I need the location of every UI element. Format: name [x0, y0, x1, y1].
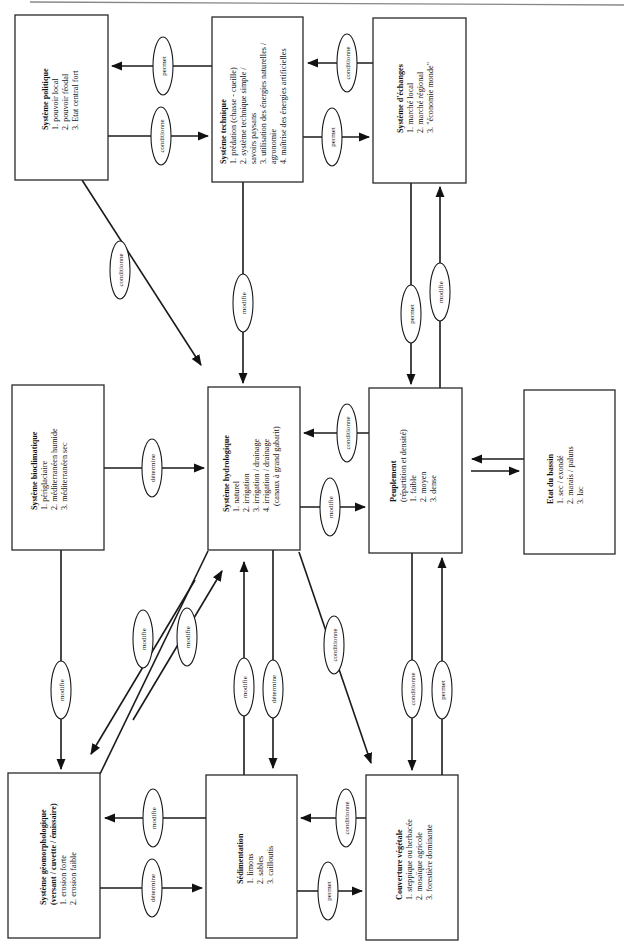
- relation-label: modifie: [240, 292, 248, 314]
- relation-label: conditionne: [409, 672, 417, 705]
- box-systeme-hydrologique: Système hydrologique 1. naturel 2. irrig…: [208, 387, 300, 550]
- box-systeme-technique: Système technique 1. prédation (chasse -…: [212, 17, 303, 182]
- relation-label: modifie: [58, 679, 66, 701]
- top-rule: [30, 2, 624, 5]
- box-couverture-vegetale: Couverture végétale 1. steppique ou herb…: [366, 775, 458, 940]
- relation-label: modifie: [184, 626, 192, 648]
- edge-technique-echanges: permet: [303, 108, 369, 166]
- relation-label: modifie: [150, 807, 158, 829]
- relation-label: permet: [439, 680, 447, 699]
- edge-geomorphologique-sedimentation: détermine: [100, 859, 202, 917]
- relation-label: modifie: [327, 496, 335, 518]
- relation-label: conditionne: [331, 628, 339, 661]
- box-systeme-geomorphologique: Système géomorphologique (versant / cuve…: [8, 773, 100, 938]
- svg-text:Système d'échanges 1. ma: Système d'échanges 1. marché local 2. ma…: [389, 60, 435, 133]
- edge-technique-politique: permet: [112, 37, 212, 95]
- edge-geomorphologique-hydrologique: modifie: [100, 551, 222, 774]
- box-title: Sédimentation: [236, 833, 245, 884]
- edge-sedimentation-geomorphologique: modifie: [105, 789, 206, 847]
- edge-hydrologique-sedimentation: détermine: [263, 550, 283, 768]
- box-title: Couverture végétale: [395, 829, 404, 900]
- edge-technique-hydrologique: modifie: [233, 182, 253, 383]
- box-title: Système politique: [41, 68, 50, 130]
- relation-label: conditionne: [117, 253, 125, 286]
- edge-sedimentation-hydrologique: modifie: [234, 562, 254, 775]
- box-sedimentation: Sédimentation 1. limons 2. sables 3. cai…: [206, 775, 297, 938]
- systems-diagram: permet conditionne conditionne permet co…: [0, 0, 624, 950]
- box-title: Système bioclimatique: [30, 431, 39, 510]
- relation-label: permet: [408, 304, 416, 323]
- box-systeme-politique: Système politique 1. pouvoir local 2. po…: [15, 15, 108, 180]
- relation-label: conditionne: [344, 46, 352, 79]
- edge-sedimentation-vegetale: permet: [297, 862, 362, 920]
- edge-hydrologique-geomorphologique: modifie: [91, 580, 195, 754]
- edge-bioclimatique-geomorphologique: modifie: [51, 550, 71, 769]
- edge-peuplement-echanges: modifie: [430, 187, 450, 388]
- relation-label: permet: [160, 56, 168, 75]
- edge-bassin-peuplement: [471, 459, 524, 471]
- edge-hydrologique-peuplement: modifie: [300, 478, 365, 536]
- box-title: Etat du bassin: [546, 453, 555, 504]
- box-title: Système géomorphologique: [39, 809, 48, 905]
- box-etat-du-bassin: Etat du bassin 1. sec / exondé 2. marais…: [524, 390, 615, 554]
- box-systeme-echanges: Système d'échanges 1. marché local 2. ma…: [373, 18, 466, 183]
- edge-echanges-technique: conditionne: [308, 34, 373, 92]
- relation-label: permet: [329, 127, 337, 146]
- relation-label: modifie: [241, 676, 249, 698]
- edge-echanges-peuplement: permet: [401, 183, 421, 384]
- relation-label: conditionne: [344, 416, 352, 449]
- relation-label: détermine: [270, 675, 278, 703]
- box-title: Système hydrologique: [222, 435, 231, 512]
- svg-text:Système politique 1. pou: Système politique 1. pouvoir local 2. po…: [34, 64, 80, 130]
- relation-label: conditionne: [158, 119, 166, 152]
- box-peuplement: Peuplement (répartition et densité) 1. f…: [369, 388, 462, 553]
- edge-vegetale-peuplement: permet: [432, 558, 452, 775]
- edge-peuplement-vegetale: conditionne: [402, 553, 422, 770]
- svg-text:Couverture végétale 1. s: Couverture végétale 1. steppique ou herb…: [388, 815, 434, 900]
- box-title: Système technique: [219, 99, 228, 164]
- relation-label: conditionne: [343, 801, 351, 834]
- edge-politique-hydrologique: conditionne: [82, 180, 201, 365]
- edge-politique-technique: conditionne: [108, 107, 208, 165]
- relation-label: modifie: [140, 628, 148, 650]
- edge-peuplement-hydrologique: conditionne: [304, 404, 369, 462]
- edge-hydrologique-vegetale: conditionne: [299, 552, 371, 763]
- box-systeme-bioclimatique: Système bioclimatique 1. périglaciaire 2…: [12, 385, 104, 550]
- relation-label: détermine: [149, 874, 157, 902]
- box-title: Peuplement: [389, 460, 398, 502]
- box-title: Système d'échanges: [396, 64, 405, 133]
- relation-label: permet: [325, 881, 333, 900]
- relation-label: détermine: [149, 454, 157, 482]
- edge-bioclimatique-hydrologique: détermine: [104, 439, 204, 497]
- edge-vegetale-sedimentation: conditionne: [301, 789, 366, 847]
- relation-label: modifie: [437, 281, 445, 303]
